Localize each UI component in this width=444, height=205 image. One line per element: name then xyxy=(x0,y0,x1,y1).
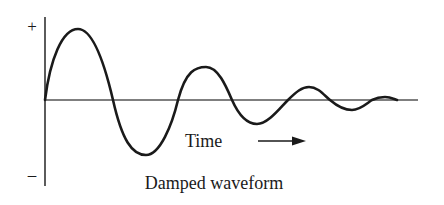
time-label: Time xyxy=(185,131,222,151)
negative-sign: – xyxy=(27,165,37,184)
damped-waveform-figure: + – Time Damped waveform xyxy=(0,0,444,205)
right-arrow-icon xyxy=(258,137,306,146)
positive-sign: + xyxy=(27,17,37,36)
figure-caption: Damped waveform xyxy=(145,173,283,193)
